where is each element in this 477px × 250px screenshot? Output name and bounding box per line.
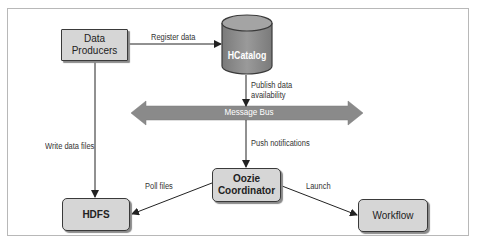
data-producers-line1: Data [72,33,118,45]
label-publish-line2: availability [251,90,286,100]
node-hdfs: HDFS [62,198,130,231]
message-bus-label: Message Bus [218,107,281,118]
oozie-line1: Oozie [218,173,275,185]
data-producers-line2: Producers [72,45,118,57]
hcatalog-label: HCatalog [225,50,269,62]
node-workflow: Workflow [358,199,428,232]
label-write-data-files: Write data files [45,141,94,151]
oozie-line2: Coordinator [218,185,275,197]
hcatalog-cylinder-icon [222,15,272,74]
label-register-data: Register data [151,32,195,42]
label-publish-line1: Publish data [251,80,292,90]
label-poll-files: Poll files [145,181,173,191]
label-push-notifications: Push notifications [251,138,310,148]
node-oozie-coordinator: Oozie Coordinator [212,168,281,202]
node-data-producers: Data Producers [61,29,128,61]
hdfs-label: HDFS [82,209,109,221]
workflow-label: Workflow [373,210,414,222]
label-launch: Launch [306,181,331,191]
